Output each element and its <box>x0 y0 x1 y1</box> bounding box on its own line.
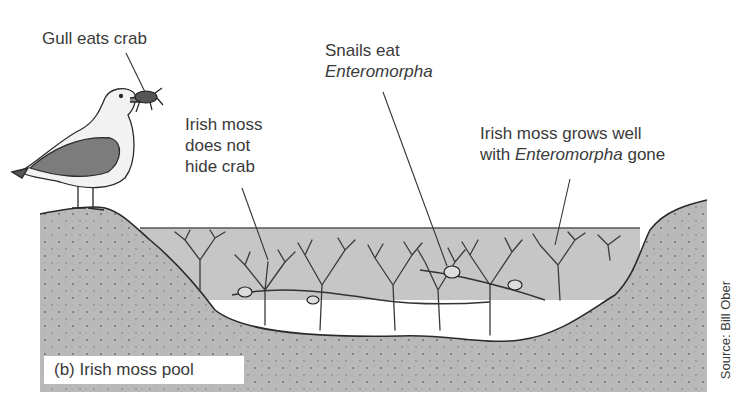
label-text: hide crab <box>185 156 262 177</box>
label-italic-text: Enteromorpha <box>515 145 623 164</box>
label-text: does not <box>185 135 262 156</box>
label-snails-eat: Snails eat Enteromorpha <box>325 40 433 82</box>
label-text: Irish moss grows well <box>480 123 665 144</box>
label-text: Gull eats crab <box>42 29 147 48</box>
irish-moss-pool-diagram: Gull eats crab Snails eat Enteromorpha I… <box>0 0 739 406</box>
label-text: gone <box>623 145 666 164</box>
gull <box>12 89 145 210</box>
label-gull-eats-crab: Gull eats crab <box>42 28 147 49</box>
label-grows-well: Irish moss grows well with Enteromorpha … <box>480 123 665 165</box>
crab <box>135 88 163 112</box>
source-credit: Source: Bill Ober <box>718 281 733 379</box>
panel-caption: (b) Irish moss pool <box>44 356 244 384</box>
label-text: Snails eat <box>325 40 433 61</box>
label-italic-text: Enteromorpha <box>325 62 433 81</box>
label-text: with <box>480 145 515 164</box>
label-does-not-hide-crab: Irish moss does not hide crab <box>185 114 262 177</box>
label-text: Irish moss <box>185 114 262 135</box>
